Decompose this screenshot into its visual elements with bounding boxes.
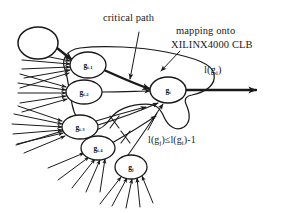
node-source [18, 27, 58, 59]
nodes [18, 27, 186, 179]
fanin-g-j [100, 176, 153, 208]
ineq-part-2: )≤l(g [161, 134, 181, 145]
node-label-g-i-1: gi-1 [84, 61, 93, 70]
diagram-svg [0, 0, 286, 213]
figure-canvas: Critical path gate clustering mapped ont… [0, 0, 286, 213]
output-l-prefix: l(g [204, 64, 216, 75]
leader-inequality [148, 113, 157, 130]
fanin-g-i-3 [12, 106, 65, 153]
ineq-part-3: )-1 [184, 134, 196, 145]
node-label-g-i-4: gi-4 [94, 144, 103, 153]
node-label-g-i-sub: i [169, 90, 170, 95]
node-label-g-i-1-sub: i-1 [87, 65, 92, 70]
node-label-g-i-2: gi-2 [80, 88, 89, 97]
label-mapping-line2: XILINX4000 CLB [171, 39, 253, 50]
node-label-g-i-2-sub: i-2 [83, 92, 88, 97]
leader-mapping [161, 51, 180, 71]
node-label-g-i: gi [165, 86, 170, 95]
output-l-suffix: ) [218, 64, 222, 75]
label-critical-path: critical path [103, 12, 154, 23]
ineq-part-1: l(g [148, 134, 159, 145]
node-label-g-i-3: gi-3 [76, 123, 85, 132]
leader-critical-path [130, 32, 139, 79]
label-output-l-gi: l(gi) [204, 64, 222, 76]
edge-g-i-1-to-g-i [104, 70, 150, 89]
label-inequality: l(gj)≤l(gi)-1 [148, 135, 196, 146]
cross-mark-1 [110, 116, 119, 128]
edge-g-i-2-to-g-i [102, 91, 150, 92]
node-label-g-j: gj [128, 163, 133, 172]
node-label-g-j-sub: j [132, 167, 134, 172]
node-label-g-i-3-sub: i-3 [79, 127, 84, 132]
edge-g-j-to-g-i [128, 104, 163, 155]
label-mapping-line1: mapping onto [176, 25, 235, 36]
fanin-g-i-2 [18, 74, 67, 112]
node-label-g-i-4-sub: i-4 [97, 148, 102, 153]
